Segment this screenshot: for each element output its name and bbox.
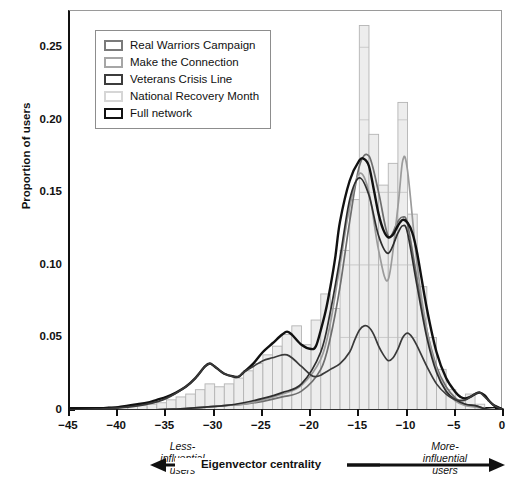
y-axis-tick-label: 0.10 — [40, 258, 62, 270]
caption-less-line1: Less- — [130, 440, 235, 452]
legend-item-4[interactable]: Full network — [104, 105, 263, 122]
legend-item-label: National Recovery Month — [130, 91, 259, 103]
x-axis-tick-mark — [406, 409, 408, 416]
y-axis-tick-label: 0.25 — [40, 40, 62, 52]
legend-item-label: Real Warriors Campaign — [130, 40, 255, 52]
histogram-bar — [398, 102, 408, 410]
x-axis-tick-mark — [502, 409, 504, 416]
y-axis-tick-label: 0.15 — [40, 185, 62, 197]
caption-more-line2: influential — [390, 452, 500, 464]
histogram-bar — [359, 26, 369, 410]
histogram-bar — [388, 163, 398, 410]
x-axis-tick-mark — [213, 409, 215, 416]
legend-item-0[interactable]: Real Warriors Campaign — [104, 37, 263, 54]
y-axis-tick-labels: 0.250.200.150.100.050 — [0, 0, 62, 420]
chart-legend: Real Warriors CampaignMake the Connectio… — [95, 30, 271, 129]
y-axis-tick-label: 0.20 — [40, 113, 62, 125]
axis-caption: Less- influential users Eigenvector cent… — [0, 440, 515, 490]
x-axis-tick-mark — [454, 409, 456, 416]
x-axis-tick-label: −25 — [251, 419, 271, 431]
caption-more-influential: More- influential users — [390, 440, 500, 476]
legend-swatch-icon — [104, 40, 123, 51]
figure-container: Proportion of users 0.250.200.150.100.05… — [0, 0, 515, 490]
legend-item-label: Veterans Crisis Line — [130, 74, 232, 86]
x-axis-tick-label: −15 — [348, 419, 368, 431]
x-axis-tick-label: −45 — [58, 419, 78, 431]
x-axis-tick-mark — [357, 409, 359, 416]
x-axis-tick-mark — [261, 409, 263, 416]
x-axis-tick-mark — [116, 409, 118, 416]
legend-swatch-icon — [104, 108, 123, 119]
legend-item-2[interactable]: Veterans Crisis Line — [104, 71, 263, 88]
caption-more-line3: users — [390, 464, 500, 476]
caption-eigenvector-centrality: Eigenvector centrality — [175, 458, 347, 470]
x-axis-tick-label: −10 — [396, 419, 416, 431]
histogram-bar — [350, 200, 360, 410]
y-axis-tick-label: 0 — [56, 403, 62, 415]
x-axis-tick-mark — [164, 409, 166, 416]
legend-swatch-icon — [104, 74, 123, 85]
x-axis-tick-label: 0 — [499, 419, 505, 431]
x-axis-tick-label: −30 — [203, 419, 223, 431]
caption-more-line1: More- — [390, 440, 500, 452]
legend-item-1[interactable]: Make the Connection — [104, 54, 263, 71]
legend-swatch-icon — [104, 91, 123, 102]
legend-item-3[interactable]: National Recovery Month — [104, 88, 263, 105]
x-axis-tick-label: −40 — [106, 419, 126, 431]
x-axis-tick-mark — [309, 409, 311, 416]
x-axis-tick-label: −5 — [447, 419, 460, 431]
legend-item-label: Make the Connection — [130, 57, 239, 69]
legend-item-label: Full network — [130, 108, 192, 120]
histogram-bar — [330, 308, 340, 410]
x-axis-tick-label: −35 — [155, 419, 175, 431]
histogram-bar — [282, 335, 292, 410]
x-axis-tick-mark — [68, 409, 70, 416]
legend-swatch-icon — [104, 57, 123, 68]
x-axis-tick-label: −20 — [299, 419, 319, 431]
y-axis-tick-label: 0.05 — [40, 330, 62, 342]
